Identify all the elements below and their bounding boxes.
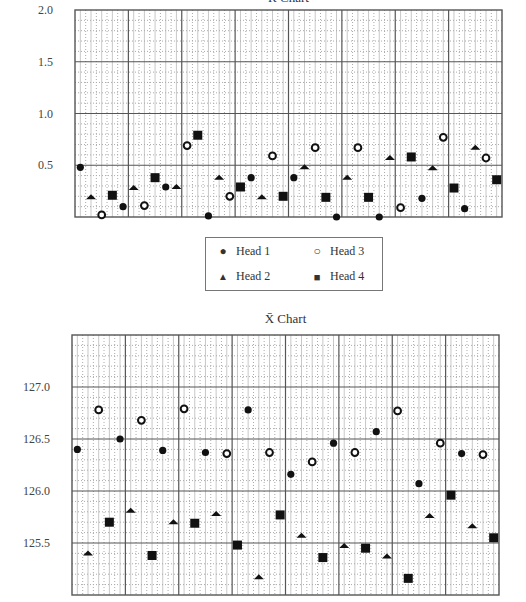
svg-text:125.5: 125.5	[23, 536, 50, 550]
legend-label: Head 4	[330, 269, 364, 284]
filled-triangle-icon: ▲	[216, 271, 230, 282]
legend-item-head-2: ▲ Head 2	[216, 269, 270, 284]
legend-label: Head 1	[236, 244, 270, 259]
xbar-chart: 125.5126.0126.5127.0X̄ Chart	[23, 311, 499, 595]
open-circle-icon: ○	[310, 244, 324, 259]
svg-text:X̄ Chart: X̄ Chart	[265, 311, 307, 326]
legend-item-head-4: ■ Head 4	[310, 269, 364, 284]
r-chart: 0.51.01.52.0R Chart	[38, 0, 502, 221]
filled-circle-icon: ●	[216, 244, 230, 259]
legend-label: Head 2	[236, 269, 270, 284]
legend-label: Head 3	[330, 244, 364, 259]
svg-text:1.0: 1.0	[38, 107, 53, 121]
legend-item-head-3: ○ Head 3	[310, 244, 364, 259]
svg-text:127.0: 127.0	[23, 380, 50, 394]
svg-text:1.5: 1.5	[38, 55, 53, 69]
svg-text:2.0: 2.0	[38, 3, 53, 17]
svg-text:0.5: 0.5	[38, 158, 53, 172]
filled-square-icon: ■	[310, 271, 324, 283]
svg-text:126.0: 126.0	[23, 484, 50, 498]
svg-text:126.5: 126.5	[23, 432, 50, 446]
legend: ● Head 1 ○ Head 3 ▲ Head 2 ■ Head 4	[205, 237, 383, 291]
svg-text:R Chart: R Chart	[268, 0, 309, 5]
legend-item-head-1: ● Head 1	[216, 244, 270, 259]
chart-canvas: 0.51.01.52.0R Chart 125.5126.0126.5127.0…	[0, 0, 526, 602]
